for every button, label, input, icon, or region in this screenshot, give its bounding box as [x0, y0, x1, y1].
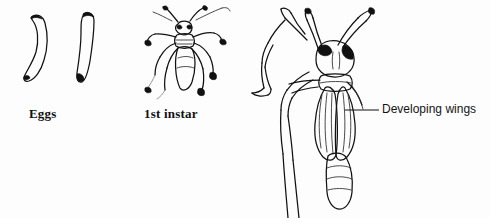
late-instar-nymph-drawing	[252, 8, 375, 218]
caption-first-instar: 1st instar	[144, 106, 198, 122]
caption-eggs: Eggs	[29, 106, 57, 122]
egg-straight-drawing	[77, 12, 94, 82]
insect-life-stage-figure: Eggs 1st instar Developing wings	[0, 0, 490, 218]
callout-label-developing-wings: Developing wings	[382, 102, 476, 116]
egg-curved-drawing	[24, 15, 47, 81]
first-instar-nymph-drawing	[145, 6, 230, 99]
